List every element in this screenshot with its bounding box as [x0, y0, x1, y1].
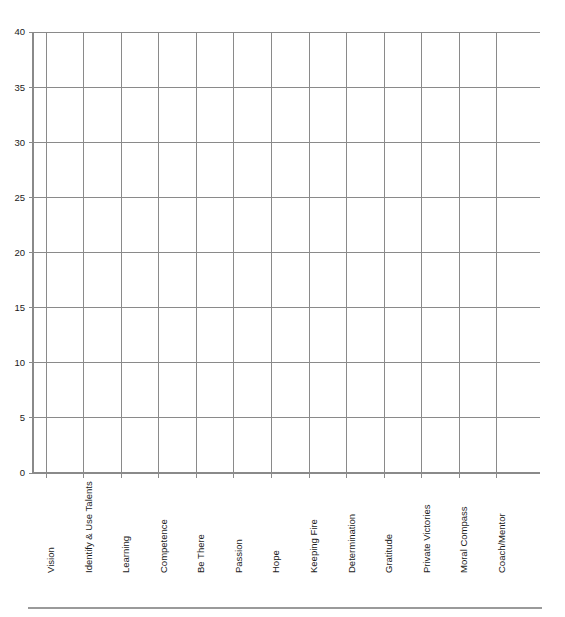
- x-tick-label-keeping-fire: Keeping Fire: [308, 519, 319, 573]
- chart-container: 0510152025303540 VisionIdentify & Use Ta…: [0, 0, 565, 617]
- x-tick-label-hope: Hope: [270, 550, 281, 573]
- x-tick-label-moral-compass: Moral Compass: [458, 506, 469, 573]
- x-tick-label-determination: Determination: [346, 514, 357, 573]
- x-tick-label-competence: Competence: [158, 519, 169, 573]
- x-tick-label-passion: Passion: [233, 539, 244, 573]
- x-tick-label-coach-mentor: Coach/Mentor: [496, 513, 507, 573]
- y-tick-label: 10: [14, 357, 25, 368]
- x-tick-label-be-there: Be There: [195, 534, 206, 573]
- bar-chart: 0510152025303540 VisionIdentify & Use Ta…: [0, 0, 565, 617]
- y-tick-label: 35: [14, 82, 25, 93]
- y-tick-label: 5: [20, 412, 25, 423]
- y-tick-label: 25: [14, 192, 25, 203]
- y-tick-label: 15: [14, 302, 25, 313]
- y-tick-label: 20: [14, 247, 25, 258]
- x-tick-label-gratitude: Gratitude: [383, 534, 394, 573]
- x-tick-label-identify-use-talents: Identify & Use Talents: [83, 481, 94, 573]
- y-tick-label: 30: [14, 137, 25, 148]
- x-tick-label-vision: Vision: [45, 547, 56, 573]
- y-tick-label: 40: [14, 26, 25, 37]
- y-tick-label: 0: [20, 467, 25, 478]
- x-tick-label-private-victories: Private Victories: [421, 504, 432, 573]
- x-tick-label-learning: Learning: [120, 536, 131, 573]
